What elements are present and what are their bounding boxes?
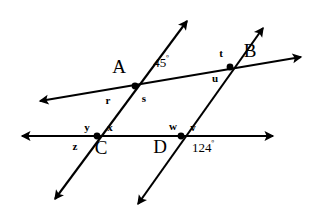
vertex-D <box>178 133 185 140</box>
angle-label-y: y <box>84 122 90 133</box>
vertex-A <box>132 83 139 90</box>
angle-label-s: s <box>142 93 146 104</box>
point-label-C: C <box>95 138 108 157</box>
diagram-svg <box>0 0 318 222</box>
vertex-B <box>227 64 234 71</box>
degree-icon: º <box>212 139 215 148</box>
degree-icon: º <box>166 54 169 63</box>
point-label-D: D <box>153 137 167 156</box>
angle-measure-124: 124º <box>192 140 214 153</box>
angle-label-r: r <box>106 95 111 106</box>
line-through-A-and-B <box>40 57 301 101</box>
angle-label-z: z <box>73 141 78 152</box>
point-label-A: A <box>112 57 126 76</box>
angle-label-t: t <box>219 48 223 59</box>
angle-label-u: u <box>212 73 218 84</box>
angle-measure-45: 45º <box>153 55 169 68</box>
angle-measure-45-value: 45 <box>153 55 166 70</box>
transversal-through-A-and-C <box>55 21 187 199</box>
angle-label-v: v <box>190 122 196 133</box>
angle-label-x: x <box>107 122 113 133</box>
point-label-B: B <box>244 41 257 60</box>
lines-group <box>22 21 301 204</box>
angle-label-w: w <box>169 121 177 132</box>
geometry-diagram-canvas: ABCDrstuyxzwv45º124º <box>0 0 318 222</box>
angle-measure-124-value: 124 <box>192 140 212 155</box>
